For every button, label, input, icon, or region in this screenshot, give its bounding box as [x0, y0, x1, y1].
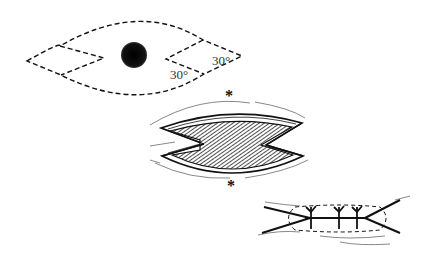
step-2-open-defect: * * [150, 87, 308, 194]
angle-label-upper: 30° [212, 53, 230, 68]
lesion-icon [121, 42, 147, 68]
closure-line-left-upper [264, 207, 310, 218]
angle-label-lower: 30° [170, 67, 188, 82]
surgical-diagram: 30° 30° * * [0, 0, 430, 258]
marker-top: * [225, 87, 233, 104]
step-1-incision-plan: 30° 30° [27, 21, 242, 94]
step-3-closure [258, 196, 410, 245]
hatched-wound-bed [170, 121, 293, 169]
closure-line-right-upper [365, 200, 400, 218]
left-flap-notch [60, 46, 104, 75]
marker-bottom: * [227, 177, 235, 194]
